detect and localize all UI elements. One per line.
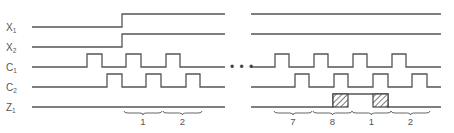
wave-x1-section-1 — [32, 14, 225, 27]
timing-diagram: X1X2C1C2Z1 127812 • • • — [0, 0, 454, 133]
cycle-label: 8 — [330, 116, 335, 127]
cycle-label: 2 — [408, 116, 413, 127]
wave-x2-section-1 — [32, 34, 225, 47]
wave-c2-section-1 — [32, 74, 225, 87]
signal-label-z1: Z1 — [6, 102, 16, 115]
brace-icon — [391, 111, 430, 115]
brace-icon — [274, 111, 312, 115]
cycle-label: 1 — [140, 116, 145, 127]
hatched-glitch-region — [373, 94, 388, 107]
wave-c1-section-2 — [251, 54, 441, 67]
cycle-label: 2 — [180, 116, 185, 127]
brace-icon — [313, 111, 352, 115]
hatched-glitch-region — [333, 94, 348, 107]
signal-label-c2: C2 — [6, 82, 17, 95]
signal-label-x1: X1 — [6, 22, 17, 35]
brace-icon — [124, 111, 162, 115]
signal-labels: X1X2C1C2Z1 — [6, 22, 17, 115]
brace-icon — [352, 111, 391, 115]
signal-label-x2: X2 — [6, 42, 17, 55]
signal-label-c1: C1 — [6, 62, 17, 75]
wave-c1-section-1 — [32, 54, 225, 67]
continuation-ellipsis: • • • — [230, 60, 254, 74]
cycle-braces: 127812 — [124, 111, 430, 127]
brace-icon — [163, 111, 202, 115]
cycle-label: 7 — [290, 116, 295, 127]
hatched-regions — [333, 94, 388, 107]
cycle-label: 1 — [369, 116, 374, 127]
wave-c2-section-2 — [251, 74, 441, 87]
